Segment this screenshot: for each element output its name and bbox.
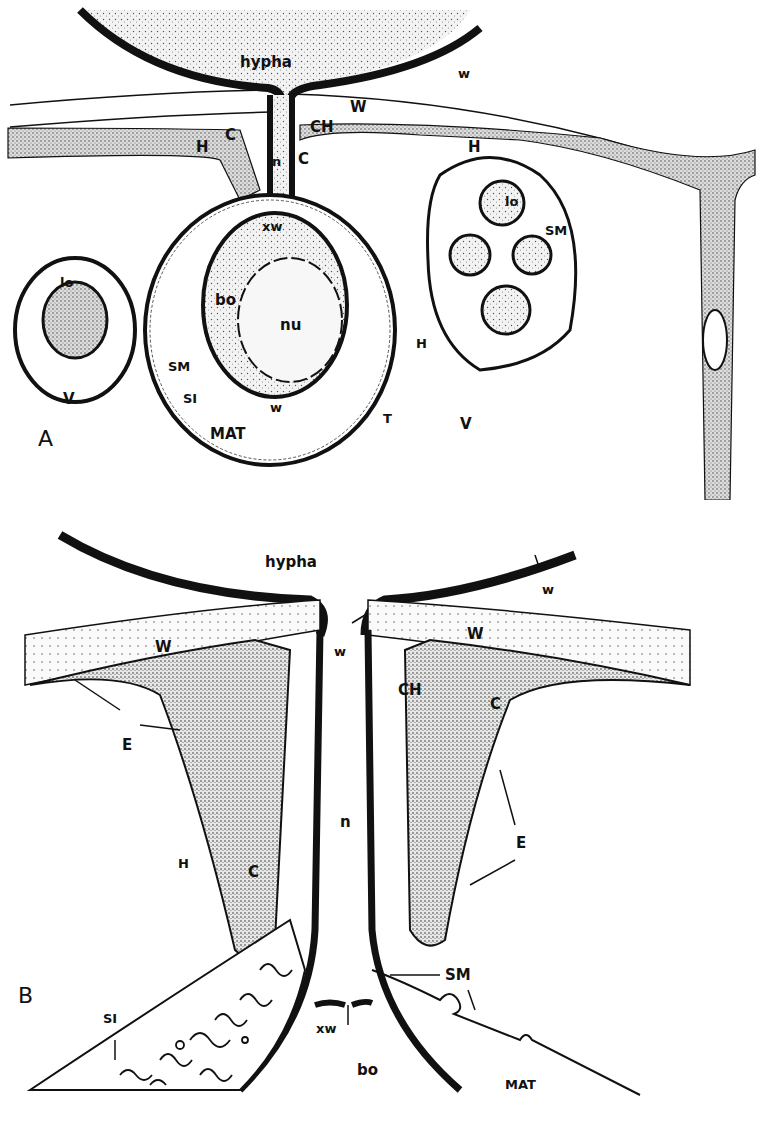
label-nucleus: nu (280, 318, 301, 333)
label-SM-left: SM (168, 360, 190, 373)
label-b-W-right: W (467, 627, 484, 642)
label-vacuole-right: V (460, 417, 472, 432)
label-b-w-right: w (542, 583, 554, 596)
panel-a-drawing (0, 0, 759, 500)
collar-right (405, 640, 690, 946)
panel-label-b: B (18, 985, 33, 1007)
label-b-collar-right: C (490, 697, 501, 712)
label-b-CH: CH (398, 683, 422, 698)
label-b-SM: SM (445, 968, 471, 983)
label-lobe-left: lo (60, 276, 73, 289)
label-b-collar-left: C (248, 865, 259, 880)
label-vacuole-left: V (63, 392, 75, 407)
label-b-hypha: hypha (265, 555, 317, 570)
label-lobe-right: lo (505, 195, 518, 208)
label-collar-left: C (225, 128, 236, 143)
label-b-neck-n: n (340, 815, 351, 830)
label-host-cytoplasm-right: H (468, 140, 481, 155)
label-haustorial-wall-w: w (458, 67, 470, 80)
label-body-bo: bo (215, 293, 236, 308)
label-b-E-right: E (516, 836, 526, 851)
label-host-cytoplasm-left: H (196, 140, 209, 155)
label-b-matrix: MAT (505, 1078, 536, 1091)
panel-b-drawing (0, 500, 759, 1121)
label-matrix: MAT (210, 427, 246, 442)
label-SI: SI (183, 392, 197, 405)
label-b-host-H: H (178, 857, 189, 870)
label-collar-right: C (298, 152, 309, 167)
label-hypha: hypha (240, 55, 292, 70)
label-b-body-bo: bo (357, 1063, 378, 1078)
label-SM-right: SM (545, 224, 567, 237)
label-b-w-neck: w (334, 645, 346, 658)
label-b-xw: xw (316, 1022, 336, 1035)
label-xw: xw (262, 220, 282, 233)
label-b-W-left: W (155, 640, 172, 655)
label-b-E-left: E (122, 738, 132, 753)
label-host-H-mid: H (416, 337, 427, 350)
label-neck-n: n (272, 155, 281, 168)
label-CH: CH (310, 120, 334, 135)
label-b-SI: SI (103, 1012, 117, 1025)
panel-label-a: A (38, 428, 53, 450)
collar-left (30, 640, 290, 956)
label-host-wall-W: W (350, 100, 367, 115)
label-wall-w-bottom: w (270, 401, 282, 414)
label-tonoplast: T (383, 412, 392, 425)
